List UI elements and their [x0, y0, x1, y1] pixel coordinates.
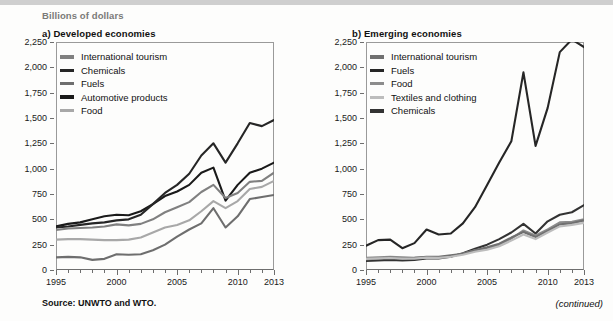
legend-item-label: Food	[391, 78, 413, 89]
y-tick-label: 0	[352, 265, 357, 275]
source-note: Source: UNWTO and WTO.	[42, 298, 156, 308]
y-tick-label: 1,750	[24, 88, 47, 98]
x-tick-mark	[68, 270, 69, 273]
panel-a-title: a) Developed economies	[42, 28, 156, 39]
y-tick-label: 2,000	[334, 62, 357, 72]
x-tick-mark	[238, 270, 239, 275]
y-tick-label: 1,500	[334, 113, 357, 123]
y-tick-label: 1,750	[334, 88, 357, 98]
y-tick-mark	[360, 42, 364, 43]
y-tick-label: 250	[32, 240, 47, 250]
x-tick-label: 2010	[228, 277, 248, 287]
x-tick-mark	[177, 270, 178, 275]
x-tick-mark	[475, 270, 476, 273]
units-label: Billions of dollars	[42, 10, 124, 21]
y-tick-mark	[50, 270, 54, 271]
legend-emerging: International tourismFuelsFoodTextiles a…	[370, 50, 477, 118]
legend-item-label: Food	[81, 105, 103, 116]
x-tick-mark	[487, 270, 488, 275]
x-tick-mark	[463, 270, 464, 273]
x-tick-mark	[129, 270, 130, 273]
x-tick-mark	[262, 270, 263, 273]
y-tick-mark	[360, 270, 364, 271]
y-tick-label: 1,250	[24, 138, 47, 148]
legend-item[interactable]: Chemicals	[370, 104, 477, 118]
x-tick-label: 2000	[417, 277, 437, 287]
x-tick-mark	[165, 270, 166, 273]
x-tick-mark	[402, 270, 403, 273]
x-tick-mark	[390, 270, 391, 273]
legend-swatch-icon	[370, 82, 384, 85]
x-tick-mark	[117, 270, 118, 275]
legend-item[interactable]: International tourism	[60, 50, 168, 64]
y-tick-label: 0	[42, 265, 47, 275]
y-tick-mark	[360, 194, 364, 195]
x-tick-label: 2000	[107, 277, 127, 287]
legend-item[interactable]: Textiles and clothing	[370, 91, 477, 105]
y-tick-mark	[50, 93, 54, 94]
y-tick-label: 750	[32, 189, 47, 199]
legend-item[interactable]: Automotive products	[60, 91, 168, 105]
legend-swatch-icon	[60, 55, 74, 59]
legend-item-label: International tourism	[391, 51, 477, 62]
legend-swatch-icon	[370, 55, 384, 59]
x-tick-mark	[226, 270, 227, 273]
y-tick-mark	[360, 67, 364, 68]
x-tick-mark	[213, 270, 214, 273]
y-tick-label: 2,000	[24, 62, 47, 72]
y-tick-mark	[360, 143, 364, 144]
y-axis-developed: 02505007501,0001,2501,5001,7502,0002,250	[4, 42, 54, 270]
x-tick-mark	[378, 270, 379, 273]
legend-item[interactable]: Chemicals	[60, 64, 168, 78]
y-tick-mark	[50, 219, 54, 220]
x-tick-mark	[201, 270, 202, 273]
x-tick-mark	[366, 270, 367, 275]
x-tick-label: 1995	[356, 277, 376, 287]
x-tick-mark	[511, 270, 512, 273]
y-tick-label: 1,500	[24, 113, 47, 123]
x-tick-label: 1995	[46, 277, 66, 287]
x-tick-mark	[56, 270, 57, 275]
legend-swatch-icon	[60, 109, 74, 112]
x-tick-mark	[92, 270, 93, 273]
x-tick-mark	[274, 270, 275, 275]
legend-swatch-icon	[60, 82, 74, 85]
x-tick-label: 2013	[574, 277, 594, 287]
x-tick-mark	[548, 270, 549, 275]
y-tick-label: 750	[342, 189, 357, 199]
y-tick-label: 250	[342, 240, 357, 250]
legend-swatch-icon	[370, 96, 384, 99]
y-tick-label: 1,000	[334, 164, 357, 174]
legend-item[interactable]: Food	[60, 104, 168, 118]
legend-item-label: Textiles and clothing	[391, 92, 477, 103]
x-tick-mark	[451, 270, 452, 273]
y-tick-mark	[50, 42, 54, 43]
y-tick-mark	[50, 67, 54, 68]
x-tick-mark	[80, 270, 81, 273]
y-tick-mark	[50, 169, 54, 170]
legend-item[interactable]: Fuels	[370, 64, 477, 78]
legend-item[interactable]: Food	[370, 77, 477, 91]
y-tick-mark	[360, 219, 364, 220]
y-tick-label: 500	[342, 214, 357, 224]
legend-swatch-icon	[370, 69, 384, 72]
x-tick-mark	[560, 270, 561, 273]
x-tick-mark	[523, 270, 524, 273]
y-tick-mark	[360, 245, 364, 246]
y-tick-mark	[50, 194, 54, 195]
y-tick-label: 1,250	[334, 138, 357, 148]
legend-developed: International tourismChemicalsFuelsAutom…	[60, 50, 168, 118]
legend-item[interactable]: International tourism	[370, 50, 477, 64]
legend-item[interactable]: Fuels	[60, 77, 168, 91]
y-tick-label: 2,250	[24, 37, 47, 47]
y-tick-label: 2,250	[334, 37, 357, 47]
legend-swatch-icon	[60, 95, 74, 99]
continued-note: (continued)	[555, 298, 603, 309]
legend-item-label: Fuels	[81, 78, 104, 89]
y-tick-mark	[50, 245, 54, 246]
legend-swatch-icon	[60, 69, 74, 72]
x-tick-label: 2005	[167, 277, 187, 287]
x-tick-label: 2010	[538, 277, 558, 287]
legend-item-label: Automotive products	[81, 92, 168, 103]
x-tick-mark	[584, 270, 585, 275]
